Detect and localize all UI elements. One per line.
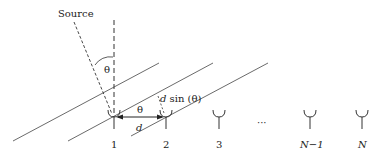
antenna-array-diagram: θ Source θ d d sin (θ) ··· 1 2 3 N−1 N: [0, 0, 384, 156]
path-difference-label: d sin (θ): [160, 93, 201, 104]
arrowhead-left-icon: [116, 115, 123, 120]
antenna-n-minus-1: [304, 110, 316, 129]
angle-label-top: θ: [104, 64, 110, 75]
antenna-n: [356, 110, 368, 129]
element-label-n: N: [357, 139, 368, 150]
element-label-n-minus-1: N−1: [299, 139, 324, 150]
antenna-3: [213, 110, 225, 129]
source-label: Source: [58, 8, 94, 19]
element-label-3: 3: [216, 139, 222, 150]
angle-label-bottom: θ: [137, 104, 143, 115]
element-label-1: 1: [111, 139, 117, 150]
element-label-2: 2: [163, 139, 169, 150]
spacing-label: d: [136, 122, 142, 133]
ellipsis: ···: [257, 117, 267, 128]
